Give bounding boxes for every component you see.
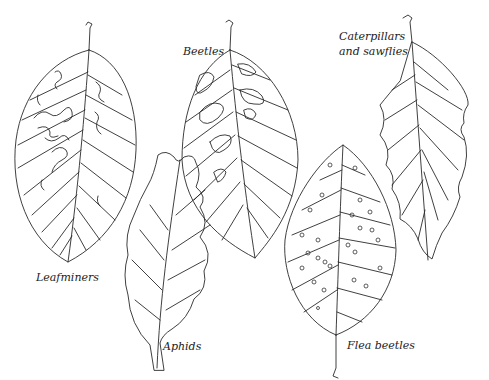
illustration bbox=[0, 0, 489, 380]
label-flea-beetles: Flea beetles bbox=[347, 339, 415, 352]
label-beetles: Beetles bbox=[183, 45, 224, 58]
label-aphids: Aphids bbox=[163, 340, 201, 353]
label-caterpillars-line1: Caterpillars bbox=[339, 30, 405, 43]
label-leafminers: Leafminers bbox=[36, 271, 99, 284]
aphids-leaf bbox=[125, 152, 210, 370]
label-caterpillars-line2: and sawflies bbox=[339, 45, 408, 58]
leafminers-leaf bbox=[15, 22, 136, 262]
